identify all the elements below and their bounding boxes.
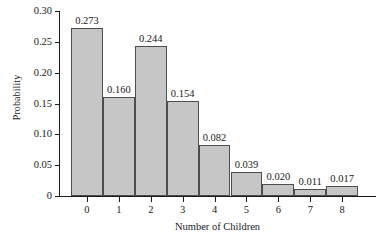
x-axis-tick-mark	[215, 197, 216, 202]
x-axis-tick-label: 5	[231, 204, 261, 215]
x-axis-tick-mark	[87, 197, 88, 202]
y-axis-tick-label: 0.25	[22, 37, 52, 48]
x-axis-tick-label: 0	[72, 204, 102, 215]
x-axis-tick-label: 3	[168, 204, 198, 215]
bar[interactable]	[167, 101, 199, 196]
x-axis-tick-label: 8	[327, 204, 357, 215]
x-axis-tick-label: 2	[136, 204, 166, 215]
bar-value-label: 0.244	[131, 34, 171, 45]
y-axis-tick-label: 0.05	[22, 160, 52, 171]
y-axis-title: Probability	[11, 53, 22, 143]
y-axis-tick-label: 0	[22, 191, 52, 202]
x-axis-tick-mark	[246, 197, 247, 202]
x-axis-tick-mark	[278, 197, 279, 202]
y-axis-tick-label-group: 00.050.100.150.200.250.30	[22, 0, 52, 241]
x-axis-tick-mark	[310, 197, 311, 202]
bar[interactable]	[294, 189, 326, 196]
x-axis-line	[59, 196, 376, 197]
probability-bar-chart: Probability 00.050.100.150.200.250.30 01…	[0, 0, 389, 241]
bar[interactable]	[199, 145, 231, 196]
y-axis-tick-label: 0.30	[22, 6, 52, 17]
y-axis-tick-label: 0.15	[22, 99, 52, 110]
bar[interactable]	[135, 46, 167, 196]
x-axis-tick-mark	[342, 197, 343, 202]
bar[interactable]	[326, 186, 358, 196]
bar-value-label: 0.082	[195, 133, 235, 144]
plot-area	[59, 11, 376, 196]
x-axis-tick-label: 1	[104, 204, 134, 215]
x-axis-tick-label: 7	[295, 204, 325, 215]
x-axis-tick-mark	[119, 197, 120, 202]
x-axis-tick-label: 6	[263, 204, 293, 215]
bar-value-label: 0.017	[322, 174, 362, 185]
x-axis-tick-mark	[151, 197, 152, 202]
bar[interactable]	[71, 28, 103, 196]
y-axis-tick-label: 0.10	[22, 129, 52, 140]
x-axis-tick-label: 4	[200, 204, 230, 215]
y-axis-tick-label: 0.20	[22, 68, 52, 79]
x-axis-title: Number of Children	[59, 221, 376, 232]
x-axis-tick-mark	[183, 197, 184, 202]
bar-value-label: 0.154	[163, 89, 203, 100]
bar-value-label: 0.273	[67, 16, 107, 27]
bar[interactable]	[103, 97, 135, 196]
bar-value-label: 0.039	[227, 160, 267, 171]
bar-value-label: 0.160	[99, 85, 139, 96]
